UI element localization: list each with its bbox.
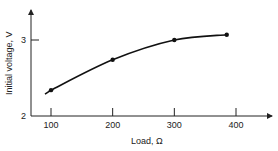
line-chart: 10020030040023 Load, Ω Initial voltage, … <box>0 0 278 151</box>
x-axis-label: Load, Ω <box>131 136 163 146</box>
series-line <box>45 35 227 94</box>
data-point <box>49 88 53 92</box>
data-point <box>110 58 114 62</box>
y-tick-label: 2 <box>21 111 26 121</box>
x-tick-label: 100 <box>43 120 58 130</box>
x-tick-label: 300 <box>167 120 182 130</box>
y-axis-label: Initial voltage, V <box>4 31 14 95</box>
data-series <box>45 32 229 94</box>
x-tick-label: 400 <box>228 120 243 130</box>
data-point <box>225 32 229 36</box>
x-tick-label: 200 <box>105 120 120 130</box>
data-point <box>172 38 176 42</box>
y-tick-label: 3 <box>21 35 26 45</box>
